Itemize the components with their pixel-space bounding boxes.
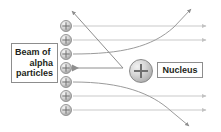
alpha-particle-3: [61, 49, 72, 60]
scattering-diagram-figure: Beam of alpha particles Nucleus: [0, 0, 221, 132]
alpha-particle-group: [61, 21, 72, 116]
nucleus-label: Nucleus: [157, 62, 203, 78]
alpha-particle-1: [61, 21, 72, 32]
beam-of-alpha-particles-label: Beam of alpha particles: [11, 43, 58, 83]
beam-label-line-2: alpha: [15, 58, 53, 69]
alpha-particle-2: [61, 35, 72, 46]
alpha-particle-4: [61, 63, 72, 74]
nucleus-plus-horizontal-icon: [134, 70, 148, 72]
beam-entry-arrowhead-icon: [72, 65, 79, 72]
ray-5-deflected-down: [73, 82, 189, 126]
nucleus-sphere: [129, 59, 153, 83]
beam-label-line-3: particles: [15, 68, 53, 79]
beam-label-line-1: Beam of: [15, 47, 53, 58]
alpha-particle-5: [61, 77, 72, 88]
alpha-particle-6: [61, 91, 72, 102]
backscatter-group: [72, 11, 123, 72]
alpha-particle-7: [61, 105, 72, 116]
